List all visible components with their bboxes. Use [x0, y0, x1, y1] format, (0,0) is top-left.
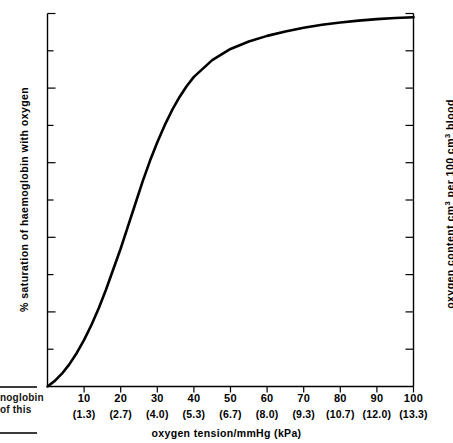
margin-rule-top	[0, 386, 37, 388]
x-axis-tick-label-mmhg: 100	[389, 392, 439, 404]
y-axis-right-title-part1: oxygen content cm	[444, 205, 453, 308]
data-curve-oxygen-dissociation	[48, 17, 414, 386]
margin-body-text: noglobin of this	[0, 392, 44, 416]
margin-rule-bottom	[0, 432, 37, 434]
y-axis-left-title: % saturation of haemoglobin with oxygen	[18, 92, 30, 312]
y-axis-right-title: oxygen content cm3 per 100 cm3 blood	[444, 84, 453, 324]
x-axis-title: oxygen tension/mmHg (kPa)	[0, 427, 453, 439]
superscript-three-a: 3	[443, 201, 452, 206]
margin-text-line-2: of this	[0, 404, 44, 416]
y-axis-right-title-part2: per 100 cm	[444, 138, 453, 201]
superscript-three-b: 3	[443, 133, 452, 138]
margin-text-line-1: noglobin	[0, 392, 44, 404]
oxygen-dissociation-chart: 20406080100 2468101214161820 10(1.3)20(2…	[0, 0, 453, 443]
x-axis-tick-label-kpa: (13.3)	[389, 408, 439, 420]
x-axis-tick-label-group: 100(13.3)	[389, 392, 439, 420]
plot-area	[0, 0, 453, 443]
y-axis-right-title-part3: blood	[444, 99, 453, 133]
